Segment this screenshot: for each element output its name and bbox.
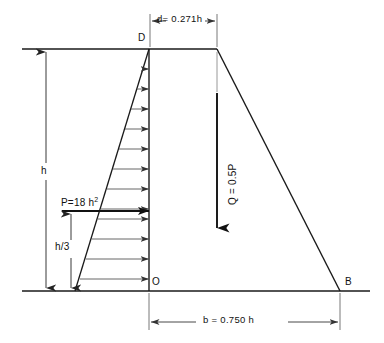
point-label-D: D <box>138 33 145 43</box>
point-label-O: O <box>152 277 160 287</box>
force-P-label-text: P=18 h <box>61 197 94 208</box>
dam-outline <box>149 49 340 291</box>
base-width-label: b = 0.750 h <box>203 315 254 325</box>
force-Q-label: Q = 0.5P <box>228 164 238 205</box>
arm-label-h-over-3: h/3 <box>55 242 70 252</box>
crest-width-label: d= 0.271h <box>157 14 202 24</box>
pressure-envelope <box>75 49 149 291</box>
height-label-h: h <box>41 166 47 176</box>
dam-section-diagram: d= 0.271h D O B h h/3 P=18 h2 Q = 0.5P b… <box>0 0 384 343</box>
pressure-arrow-group <box>80 69 149 279</box>
force-P-label: P=18 h2 <box>61 196 98 208</box>
force-P-label-exponent: 2 <box>94 196 98 203</box>
pressure-distribution <box>75 49 149 291</box>
diagram-canvas <box>0 0 384 343</box>
point-label-B: B <box>345 277 352 287</box>
